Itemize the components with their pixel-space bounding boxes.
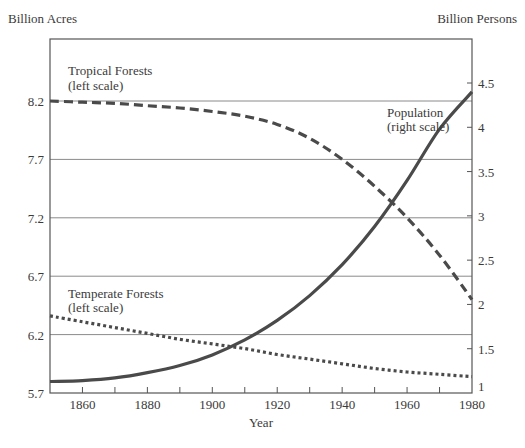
right-tick-label: 3 (478, 209, 485, 224)
x-tick-label: 1900 (199, 397, 225, 412)
left-tick-label: 6.7 (28, 269, 45, 284)
right-tick-label: 2.5 (478, 253, 494, 268)
temperate-forests-label: Temperate Forests (68, 286, 163, 301)
left-tick-label: 6.2 (28, 328, 44, 343)
x-axis-ticks: 1860188019001920194019601980 (69, 387, 485, 412)
x-tick-label: 1880 (134, 397, 160, 412)
x-tick-label: 1960 (394, 397, 420, 412)
line-chart: Billion Acres Billion Persons Year 18601… (0, 0, 525, 448)
population-sublabel: (right scale) (387, 119, 449, 134)
tropical-forests-label: Tropical Forests (68, 63, 152, 78)
x-tick-label: 1860 (69, 397, 95, 412)
left-tick-label: 7.2 (28, 211, 44, 226)
left-tick-label: 5.7 (28, 386, 45, 401)
x-tick-label: 1940 (329, 397, 355, 412)
right-tick-label: 2 (478, 297, 485, 312)
population-line (50, 92, 472, 382)
right-tick-label: 1.5 (478, 342, 494, 357)
temperate-forests-line (50, 316, 472, 377)
x-axis-title: Year (249, 415, 274, 430)
right-tick-label: 4.5 (478, 76, 494, 91)
temperate-forests-sublabel: (left scale) (68, 300, 123, 315)
population-label: Population (387, 105, 444, 120)
right-axis-ticks: 4.543.532.521.51 (467, 76, 494, 394)
x-tick-label: 1980 (459, 397, 485, 412)
x-tick-label: 1920 (264, 397, 290, 412)
tropical-forests-sublabel: (left scale) (68, 78, 123, 93)
right-axis-title: Billion Persons (437, 11, 517, 26)
right-tick-label: 3.5 (478, 165, 494, 180)
left-axis-title: Billion Acres (8, 11, 77, 26)
right-tick-label: 1 (478, 379, 485, 394)
right-tick-label: 4 (478, 120, 485, 135)
left-axis-ticks: 8.27.77.26.76.25.7 (28, 94, 45, 401)
left-tick-label: 8.2 (28, 94, 44, 109)
left-tick-label: 7.7 (28, 152, 45, 167)
